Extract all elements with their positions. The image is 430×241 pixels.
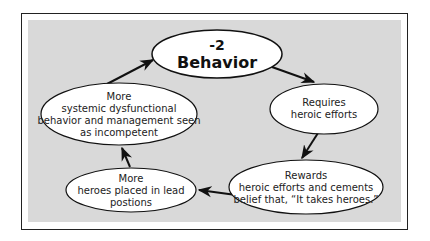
node-rewards-line-2: heroic efforts and cements xyxy=(239,182,374,193)
node-requires: Requires heroic efforts xyxy=(270,84,378,134)
node-heroes: More heroes placed in lead postions xyxy=(66,168,196,212)
node-heroes-line-2: heroes placed in lead xyxy=(77,185,184,196)
edge-heroes-to-systemic xyxy=(122,148,130,167)
node-requires-line-1: Requires xyxy=(302,97,345,108)
node-rewards-line-1: Rewards xyxy=(285,170,327,181)
cycle-diagram: -2 Behavior Requires heroic efforts Rewa… xyxy=(0,0,430,241)
node-heroes-line-3: postions xyxy=(110,197,152,208)
node-systemic-line-4: as incompetent xyxy=(80,127,158,138)
node-behavior: -2 Behavior xyxy=(152,30,282,78)
edge-behavior-to-requires xyxy=(272,67,314,82)
node-rewards-line-3: belief that, “It takes heroes.” xyxy=(233,194,378,205)
node-behavior-line-1: -2 xyxy=(209,37,225,53)
node-systemic-line-3: behavior and management seen xyxy=(37,115,200,126)
node-systemic-line-2: systemic dysfunctional xyxy=(62,103,177,114)
edge-requires-to-rewards xyxy=(302,133,318,158)
node-rewards: Rewards heroic efforts and cements belie… xyxy=(229,160,383,214)
node-heroes-line-1: More xyxy=(119,173,144,184)
edge-systemic-to-behavior xyxy=(107,60,153,84)
node-systemic-line-1: More xyxy=(107,91,132,102)
node-behavior-line-2: Behavior xyxy=(177,53,257,72)
node-requires-line-2: heroic efforts xyxy=(291,109,357,120)
node-systemic: More systemic dysfunctional behavior and… xyxy=(37,83,200,145)
